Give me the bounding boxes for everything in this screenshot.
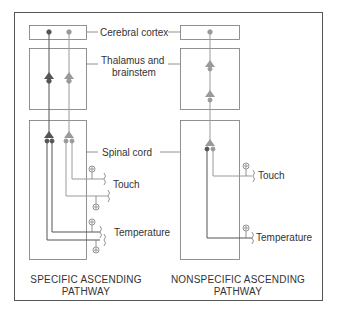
caption-nonspecific-line2: PATHWAY xyxy=(214,286,262,297)
ascending-pathways-diagram: Cerebral cortex Thalamus and brainstem S… xyxy=(0,0,337,315)
temp-brace-1 xyxy=(100,226,102,238)
left-thalamus-box xyxy=(30,49,87,110)
right-receptors xyxy=(243,163,255,244)
touch-brace-1 xyxy=(104,173,106,185)
left-spinal-box xyxy=(30,121,87,260)
dark-chain-right xyxy=(205,147,252,238)
label-temperature-right: Temperature xyxy=(256,232,313,243)
caption-nonspecific-line1: NONSPECIFIC ASCENDING xyxy=(171,274,305,285)
dark-neuron-chain xyxy=(44,30,100,240)
caption-specific-line2: PATHWAY xyxy=(62,286,110,297)
label-thalamus-line2: brainstem xyxy=(112,67,156,78)
caption-specific-line1: SPECIFIC ASCENDING xyxy=(30,274,141,285)
label-touch-left: Touch xyxy=(113,179,140,190)
light-multisynaptic-chain xyxy=(205,30,252,176)
touch-brace-2 xyxy=(108,190,110,202)
outer-frame xyxy=(15,13,323,301)
label-touch-right: Touch xyxy=(258,170,285,181)
leader-lines xyxy=(86,32,180,152)
nonspecific-pathway xyxy=(181,26,255,260)
label-thalamus-line1: Thalamus and xyxy=(101,55,164,66)
label-cerebral-cortex: Cerebral cortex xyxy=(100,27,168,38)
label-spinal-cord: Spinal cord xyxy=(102,147,152,158)
left-cortex-box xyxy=(30,26,87,40)
temp-brace-2 xyxy=(104,234,106,246)
specific-pathway xyxy=(30,26,110,260)
label-temperature-left: Temperature xyxy=(114,227,171,238)
